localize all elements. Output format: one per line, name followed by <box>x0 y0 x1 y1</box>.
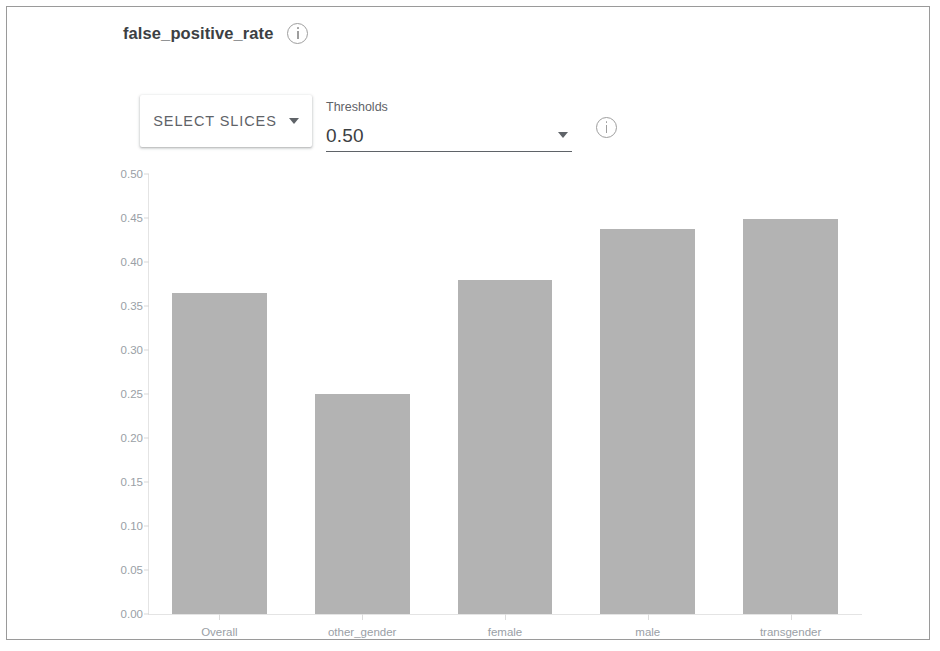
select-slices-label: SELECT SLICES <box>153 113 276 129</box>
x-tick-label: male <box>635 626 660 638</box>
controls-row: SELECT SLICES Thresholds 0.50 <box>140 95 617 152</box>
y-tick-label: 0.45 <box>97 212 143 224</box>
thresholds-label: Thresholds <box>326 99 572 115</box>
x-tick-mark <box>219 614 220 620</box>
bar[interactable] <box>172 293 267 614</box>
y-tick-label: 0.35 <box>97 300 143 312</box>
x-tick-label: other_gender <box>328 626 396 638</box>
thresholds-value: 0.50 <box>326 125 364 147</box>
x-tick-mark <box>648 614 649 620</box>
y-tick-label: 0.10 <box>97 520 143 532</box>
y-tick-label: 0.50 <box>97 168 143 180</box>
y-tick-mark <box>144 350 149 351</box>
metric-header: false_positive_rate <box>123 23 308 44</box>
info-icon[interactable] <box>287 23 308 44</box>
info-icon[interactable] <box>596 117 617 138</box>
y-tick-mark <box>144 218 149 219</box>
y-tick-label: 0.25 <box>97 388 143 400</box>
bar[interactable] <box>743 219 838 614</box>
y-tick-mark <box>144 262 149 263</box>
y-tick-label: 0.30 <box>97 344 143 356</box>
select-slices-button[interactable]: SELECT SLICES <box>140 95 312 147</box>
plot-area: 0.500.450.400.350.300.250.200.150.100.05… <box>148 174 862 614</box>
y-tick-mark <box>144 570 149 571</box>
bar[interactable] <box>458 280 553 614</box>
page-frame: false_positive_rate SELECT SLICES Thresh… <box>6 6 930 640</box>
bar[interactable] <box>600 229 695 614</box>
chevron-down-icon <box>289 118 299 124</box>
x-tick-mark <box>362 614 363 620</box>
y-tick-mark <box>144 394 149 395</box>
thresholds-select[interactable]: 0.50 <box>326 121 572 152</box>
bar[interactable] <box>315 394 410 614</box>
x-tick-label: Overall <box>201 626 237 638</box>
x-tick-label: transgender <box>760 626 821 638</box>
thresholds-field: Thresholds 0.50 <box>326 95 572 152</box>
y-tick-mark <box>144 614 149 615</box>
x-tick-mark <box>505 614 506 620</box>
y-tick-mark <box>144 174 149 175</box>
page-title: false_positive_rate <box>123 24 273 43</box>
y-tick-label: 0.20 <box>97 432 143 444</box>
y-tick-label: 0.40 <box>97 256 143 268</box>
y-tick-mark <box>144 306 149 307</box>
y-tick-mark <box>144 526 149 527</box>
bar-chart: 0.500.450.400.350.300.250.200.150.100.05… <box>97 162 887 642</box>
x-tick-mark <box>791 614 792 620</box>
chevron-down-icon <box>558 132 568 138</box>
y-tick-mark <box>144 438 149 439</box>
y-tick-label: 0.00 <box>97 608 143 620</box>
y-tick-label: 0.05 <box>97 564 143 576</box>
y-tick-mark <box>144 482 149 483</box>
x-tick-label: female <box>488 626 523 638</box>
y-tick-label: 0.15 <box>97 476 143 488</box>
